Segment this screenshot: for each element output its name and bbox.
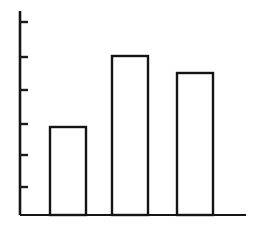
chart-canvas (0, 0, 262, 228)
bar-3[interactable] (177, 73, 213, 215)
bar-1[interactable] (50, 127, 86, 215)
bar-chart-figure (0, 0, 262, 228)
bar-2[interactable] (112, 56, 148, 215)
